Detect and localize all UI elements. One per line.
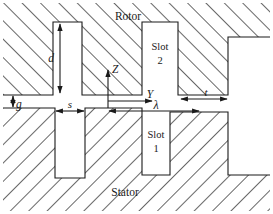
rotor-label: Rotor [115, 10, 141, 22]
dimension-s-label: s [68, 98, 72, 110]
diagram-svg: d g s t Z Y λ Rotor Stator Slot 2 Slot 1 [0, 0, 273, 214]
figure-canvas: d g s t Z Y λ Rotor Stator Slot 2 Slot 1 [0, 0, 273, 214]
slot1-label: Slot [148, 129, 165, 140]
slot2-label: Slot [152, 41, 169, 52]
dimension-lambda-label: λ [152, 98, 158, 112]
stator-label: Stator [111, 186, 139, 198]
axis-z-label: Z [112, 63, 119, 75]
dimension-s: s [56, 98, 84, 111]
slot1-number: 1 [153, 143, 158, 154]
dimension-d-label: d [48, 52, 54, 64]
slot2-number: 2 [157, 55, 162, 66]
dimension-g-label: g [16, 98, 22, 111]
